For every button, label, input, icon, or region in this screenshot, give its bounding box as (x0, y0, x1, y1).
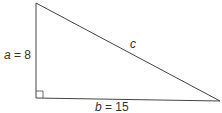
side-b-label: b = 15 (95, 100, 129, 113)
side-c-label: c (130, 37, 136, 51)
right-triangle-diagram: a = 8 c b = 15 (0, 0, 222, 113)
triangle-outline (36, 3, 220, 101)
right-angle-marker (36, 91, 43, 98)
side-a-label: a = 8 (4, 48, 31, 62)
